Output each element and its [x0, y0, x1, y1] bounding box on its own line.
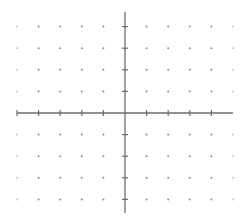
grid-dot — [146, 177, 148, 179]
grid-dot — [232, 69, 234, 71]
grid-dot — [146, 69, 148, 71]
grid-dot — [38, 134, 40, 136]
grid-dot — [232, 134, 234, 136]
grid-dot — [189, 90, 191, 92]
grid-dot — [146, 90, 148, 92]
grid-dot — [210, 177, 212, 179]
grid-dot — [81, 198, 83, 200]
grid-dot — [102, 177, 104, 179]
grid-dot — [38, 177, 40, 179]
grid-dot — [210, 47, 212, 49]
grid-dot — [81, 134, 83, 136]
grid-dot — [232, 198, 234, 200]
grid-dot — [16, 155, 18, 157]
grid-dot — [38, 90, 40, 92]
grid-dot — [38, 26, 40, 28]
grid-dot — [38, 198, 40, 200]
grid-dot — [59, 47, 61, 49]
grid-dot — [102, 155, 104, 157]
grid-dot — [16, 47, 18, 49]
grid-dot — [16, 69, 18, 71]
grid-dot — [189, 134, 191, 136]
grid-dot — [167, 47, 169, 49]
grid-dot — [210, 26, 212, 28]
grid-dot — [16, 198, 18, 200]
grid-dot — [81, 155, 83, 157]
grid-dot — [102, 90, 104, 92]
grid-dot — [59, 155, 61, 157]
grid-dot — [232, 155, 234, 157]
grid-dot — [167, 198, 169, 200]
grid-dot — [59, 134, 61, 136]
grid-dot — [59, 90, 61, 92]
grid-dot — [146, 26, 148, 28]
grid-dot — [210, 69, 212, 71]
grid-dot — [102, 26, 104, 28]
grid-dot — [189, 198, 191, 200]
grid-dot — [81, 26, 83, 28]
grid-dot — [38, 69, 40, 71]
grid-dot — [102, 69, 104, 71]
grid-dot — [167, 26, 169, 28]
grid-dot — [16, 26, 18, 28]
grid-dot — [189, 26, 191, 28]
grid-dot — [59, 69, 61, 71]
grid-dot — [38, 155, 40, 157]
coordinate-plane — [0, 0, 249, 223]
grid-dot — [16, 90, 18, 92]
grid-dot — [146, 134, 148, 136]
grid-dot — [102, 198, 104, 200]
grid-dot — [81, 90, 83, 92]
grid-dot — [167, 155, 169, 157]
grid-dot — [81, 47, 83, 49]
grid-dot — [146, 198, 148, 200]
grid-dot — [146, 155, 148, 157]
grid-dot — [167, 90, 169, 92]
grid-dot — [189, 177, 191, 179]
grid-dot — [81, 177, 83, 179]
grid-dot — [167, 177, 169, 179]
grid-dot — [232, 90, 234, 92]
grid-dot — [16, 177, 18, 179]
grid-dot — [189, 47, 191, 49]
grid-dot — [232, 47, 234, 49]
grid-dot — [210, 155, 212, 157]
grid-dot — [59, 26, 61, 28]
grid-dot — [210, 198, 212, 200]
grid-dot — [59, 177, 61, 179]
grid-dot — [102, 47, 104, 49]
grid-dot — [16, 134, 18, 136]
grid-dot — [189, 155, 191, 157]
grid-dot — [189, 69, 191, 71]
grid-dot — [210, 90, 212, 92]
grid-dot — [232, 26, 234, 28]
grid-dot — [167, 69, 169, 71]
grid-dot — [102, 134, 104, 136]
grid-dot — [232, 177, 234, 179]
grid-dot — [167, 134, 169, 136]
grid-dot — [38, 47, 40, 49]
grid-dot — [59, 198, 61, 200]
grid-dot — [210, 134, 212, 136]
grid-dot — [146, 47, 148, 49]
grid-dot — [81, 69, 83, 71]
